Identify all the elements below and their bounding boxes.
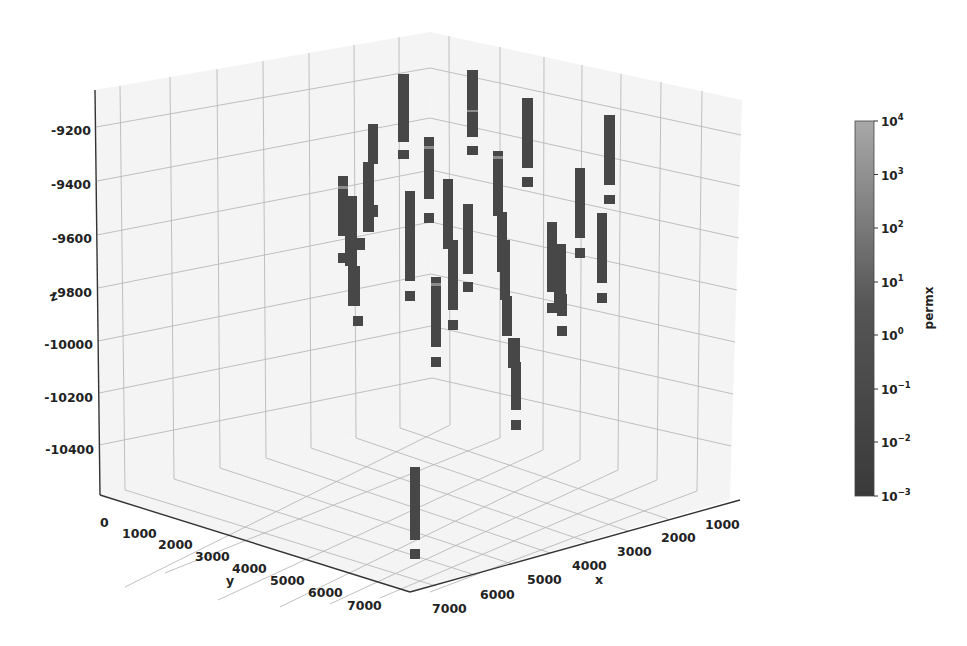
x-tick: 7000: [432, 601, 467, 616]
colorbar-ticks: [874, 121, 878, 496]
figure: -9200 -9400 -9600 -9800 -10000 -10200 -1…: [0, 0, 967, 646]
x-axis-label: x: [595, 572, 603, 587]
x-tick: 1000: [705, 517, 740, 532]
y-tick: 7000: [347, 598, 382, 613]
y-tick: 4000: [232, 561, 267, 576]
y-tick: 0: [100, 515, 109, 530]
x-tick: 5000: [527, 572, 562, 587]
svg-text:100: 100: [881, 326, 904, 343]
y-tick: 3000: [195, 549, 230, 564]
svg-text:10−2: 10−2: [881, 433, 911, 450]
colorbar-label: permx: [922, 286, 936, 329]
y-tick: 5000: [270, 573, 305, 588]
x-tick: 6000: [480, 587, 515, 602]
svg-text:101: 101: [881, 273, 904, 290]
svg-text:104: 104: [881, 112, 904, 129]
svg-text:103: 103: [881, 166, 904, 183]
z-tick: -10400: [45, 442, 94, 457]
svg-text:10−3: 10−3: [881, 487, 911, 504]
z-tick: -9400: [51, 177, 91, 192]
z-tick: -9600: [52, 231, 92, 246]
colorbar-tick-labels: 104 103 102 101 100 10−1 10−2 10−3: [881, 112, 911, 504]
colorbar: 104 103 102 101 100 10−1 10−2 10−3 permx: [855, 112, 936, 504]
y-tick: 1000: [122, 526, 157, 541]
x-tick: 4000: [572, 558, 607, 573]
svg-text:102: 102: [881, 219, 904, 236]
x-tick: 2000: [661, 530, 696, 545]
z-tick: -9200: [51, 123, 91, 138]
z-tick: -10200: [44, 390, 93, 405]
z-tick: -10000: [44, 337, 93, 352]
svg-text:10−1: 10−1: [881, 380, 911, 397]
y-axis-label: y: [226, 573, 234, 588]
colorbar-gradient: [855, 121, 874, 496]
y-tick: 6000: [308, 585, 343, 600]
y-tick: 2000: [158, 537, 193, 552]
x-tick: 3000: [617, 544, 652, 559]
z-tick: -9800: [52, 285, 92, 300]
